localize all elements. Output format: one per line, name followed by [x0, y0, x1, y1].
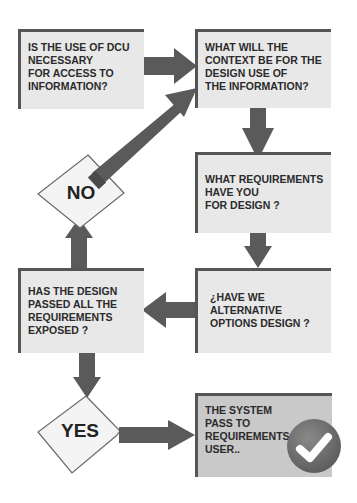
arrow-dcu-to-context	[143, 48, 197, 84]
no-label: NO	[55, 182, 107, 204]
arrow-passed-to-yes	[73, 346, 101, 398]
node-passed: HAS THE DESIGN PASSED ALL THE REQUIREMEN…	[18, 268, 144, 353]
node-requirements: WHAT REQUIREMENTS HAVE YOU FOR DESIGN ?	[195, 152, 331, 233]
node-context: WHAT WILL THE CONTEXT BE FOR THE DESIGN …	[195, 29, 331, 108]
checkmark-badge-icon	[286, 418, 342, 474]
node-alternatives: ¿HAVE WE ALTERNATIVE OPTIONS DESIGN ?	[195, 268, 331, 353]
yes-label: YES	[52, 420, 108, 442]
arrow-yes-to-system-pass	[119, 420, 195, 450]
arrow-alternatives-to-passed	[142, 292, 197, 328]
node-dcu-necessary: IS THE USE OF DCU NECESSARY FOR ACCESS T…	[18, 29, 144, 109]
